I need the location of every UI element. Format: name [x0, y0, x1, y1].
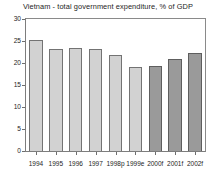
- x-axis-tick-label: 2002f: [187, 160, 203, 167]
- bar-2000f: [149, 66, 163, 151]
- y-axis-tick-label: 25: [0, 38, 21, 45]
- x-axis-tick-label: 1996: [68, 160, 82, 167]
- x-axis-tick-mark: [96, 152, 97, 155]
- bar-2001f: [168, 59, 182, 151]
- x-axis-tick-label: 1997: [88, 160, 102, 167]
- y-axis-tick-label: 15: [0, 82, 21, 89]
- x-axis-tick-label: 1995: [49, 160, 63, 167]
- y-axis-tick-label: 5: [0, 126, 21, 133]
- x-axis-tick-mark: [155, 152, 156, 155]
- bar-1996: [69, 48, 83, 151]
- bar-series-group: [26, 19, 205, 151]
- x-axis-tick-label: 1999e: [126, 160, 144, 167]
- bar-1997: [89, 49, 103, 151]
- bar-1999e: [129, 67, 143, 151]
- bar-1994: [29, 40, 43, 151]
- bar-1995: [49, 49, 63, 151]
- x-axis-tick-group: [26, 152, 205, 156]
- x-axis-tick-mark: [175, 152, 176, 155]
- y-axis-tick-label: 10: [0, 104, 21, 111]
- x-axis-label-group: 19941995199619971998p1999e2000f2001f2002…: [26, 160, 205, 172]
- y-axis-label-group: 051015202530: [0, 18, 21, 152]
- chart-title: Vietnam - total government expenditure, …: [0, 2, 216, 11]
- x-axis-tick-mark: [135, 152, 136, 155]
- bar-1998p: [109, 55, 123, 151]
- x-axis-tick-mark: [116, 152, 117, 155]
- x-axis-tick-label: 1998p: [106, 160, 124, 167]
- x-axis-tick-label: 2000f: [147, 160, 163, 167]
- y-axis-tick-label: 0: [0, 148, 21, 155]
- x-axis-tick-label: 2001f: [167, 160, 183, 167]
- x-axis-tick-label: 1994: [29, 160, 43, 167]
- chart-container: Vietnam - total government expenditure, …: [0, 0, 216, 176]
- x-axis-tick-mark: [195, 152, 196, 155]
- x-axis-tick-mark: [36, 152, 37, 155]
- x-axis-tick-mark: [76, 152, 77, 155]
- y-axis-tick-label: 20: [0, 60, 21, 67]
- y-axis-tick-label: 30: [0, 16, 21, 23]
- x-axis-tick-mark: [56, 152, 57, 155]
- bar-2002f: [188, 53, 202, 151]
